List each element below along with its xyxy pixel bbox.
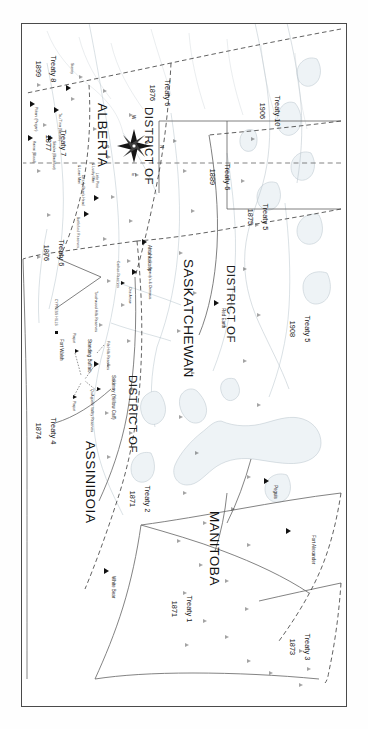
map-page: .coast{fill:none;stroke:#b9c4cb;stroke-w…	[0, 0, 368, 729]
compass-star-icon	[111, 123, 157, 169]
compass-label-north: N	[159, 145, 164, 148]
compass-label-west: W	[131, 115, 136, 119]
rotated-map-canvas: .coast{fill:none;stroke:#b9c4cb;stroke-w…	[21, 23, 347, 707]
compass-label-east: E	[131, 173, 136, 176]
map-leader-lines-layer	[21, 23, 347, 707]
compass-rose: N E S W	[111, 123, 157, 169]
compass-label-south: S	[104, 145, 109, 148]
map-frame: .coast{fill:none;stroke:#b9c4cb;stroke-w…	[21, 23, 347, 707]
